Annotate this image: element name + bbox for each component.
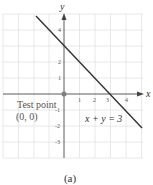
test-point-label: Test point: [17, 99, 57, 110]
x-tick-3: 3: [106, 97, 109, 103]
y-tick-1: 1: [58, 75, 61, 81]
x-tick-4: 4: [125, 97, 128, 103]
test-point-coords: (0, 0): [16, 111, 38, 123]
test-point: [62, 92, 67, 97]
x-tick-1: 1: [78, 97, 81, 103]
y-tick-2: 2: [58, 59, 61, 65]
axes: [3, 18, 140, 158]
x-axis-label: x: [145, 88, 151, 99]
x-tick-labels: 1 2 3 4: [78, 97, 128, 103]
equation-label: x + y = 3: [84, 113, 122, 124]
graph: y x 1 2 3 4 4 2 1 -1 -2 -3 Test point (0…: [0, 0, 153, 185]
y-tick-4: 4: [58, 27, 61, 33]
y-tick-labels: 4 2 1 -1 -2 -3: [55, 27, 61, 145]
y-tick-neg3: -3: [55, 139, 60, 145]
x-axis-arrow-icon: [137, 92, 144, 97]
grid: [3, 14, 143, 158]
figure-caption: (a): [0, 172, 140, 184]
x-tick-2: 2: [93, 97, 96, 103]
y-tick-neg2: -2: [55, 123, 60, 129]
y-axis-label: y: [59, 1, 65, 12]
